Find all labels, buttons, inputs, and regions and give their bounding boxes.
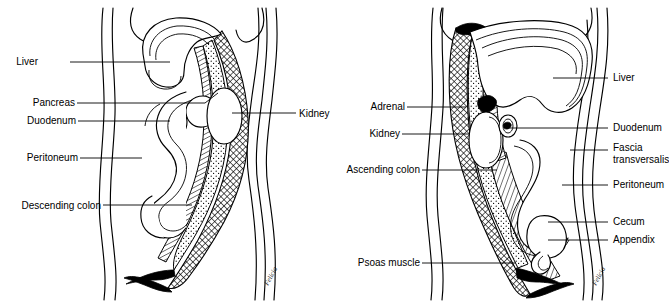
label-appendix: Appendix [613,234,655,245]
label-descending-colon: Descending colon [22,200,102,211]
label-adrenal: Adrenal [371,101,405,112]
left-descending-colon [141,92,192,238]
label-ascending-colon: Ascending colon [347,164,420,175]
label-fascia-transversalis: Fascia [613,142,643,153]
figure-canvas: Felicia Liver Pancreas Duodenum Peritone… [0,0,669,306]
label-psoas-muscle: Psoas muscle [358,257,421,268]
right-kidney [469,112,503,168]
label-liver: Liver [613,72,635,83]
label-fascia-transversalis-line2: transversalis [613,154,669,165]
label-pancreas: Pancreas [33,97,75,108]
label-kidney: Kidney [299,108,330,119]
right-sagittal-section: Felicia Adrenal Kidney Ascending colon P… [347,8,669,300]
anatomy-figure: Felicia Liver Pancreas Duodenum Peritone… [0,0,669,306]
label-peritoneum: Peritoneum [613,179,664,190]
label-duodenum: Duodenum [27,115,76,126]
label-cecum: Cecum [613,216,645,227]
label-peritoneum: Peritoneum [27,152,78,163]
label-duodenum: Duodenum [613,122,662,133]
solid-black-band [526,283,574,299]
left-sagittal-section: Felicia Liver Pancreas Duodenum Peritone… [16,8,329,300]
right-duodenum [499,115,517,137]
label-liver: Liver [16,56,38,67]
label-kidney: Kidney [369,128,400,139]
left-kidney [207,88,242,144]
